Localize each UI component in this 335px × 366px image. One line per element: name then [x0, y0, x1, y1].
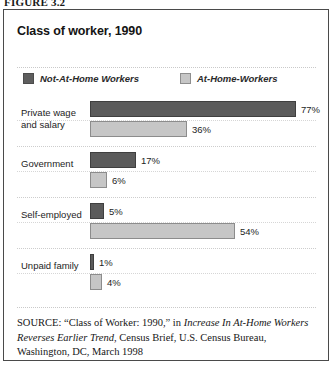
source-divider	[17, 307, 316, 308]
bar-not-at-home-private	[90, 101, 296, 117]
bar-value-at-home-self-employed: 54%	[240, 226, 259, 237]
legend-label-at-home: At-Home-Workers	[197, 73, 278, 84]
bar-row-at-home-private: 36%	[90, 121, 317, 137]
category-label-government: Government	[21, 158, 91, 170]
bar-pair-unpaid-family: 1% 4%	[90, 254, 317, 294]
figure-box: Class of worker, 1990 Not-At-Home Worker…	[3, 9, 329, 361]
bar-value-not-at-home-unpaid-family: 1%	[99, 257, 113, 268]
figure-caption: FIGURE 3.2	[4, 0, 65, 8]
legend-divider	[17, 67, 316, 68]
bar-row-not-at-home-self-employed: 5%	[90, 203, 317, 219]
bar-value-at-home-private: 36%	[192, 124, 211, 135]
bar-value-not-at-home-government: 17%	[141, 155, 160, 166]
chart-plot-area: Private wage and salary 77% 36% Governme…	[17, 96, 317, 301]
bar-row-at-home-government: 6%	[90, 172, 317, 188]
bar-not-at-home-government	[90, 152, 136, 168]
bar-not-at-home-unpaid-family	[90, 254, 94, 270]
bar-group-private-wage-and-salary: Private wage and salary 77% 36%	[17, 96, 317, 147]
chart-legend: Not-At-Home Workers At-Home-Workers	[17, 67, 317, 89]
bar-value-not-at-home-self-employed: 5%	[109, 206, 123, 217]
category-label-unpaid-family: Unpaid family	[21, 260, 91, 272]
legend-label-not-at-home: Not-At-Home Workers	[40, 73, 139, 84]
legend-item-not-at-home-workers: Not-At-Home Workers	[23, 73, 139, 84]
bar-value-at-home-government: 6%	[112, 175, 126, 186]
bar-group-government: Government 17% 6%	[17, 147, 317, 198]
bar-value-not-at-home-private: 77%	[301, 104, 320, 115]
bar-pair-self-employed: 5% 54%	[90, 203, 317, 243]
bar-group-unpaid-family: Unpaid family 1% 4%	[17, 249, 317, 300]
bar-value-at-home-unpaid-family: 4%	[107, 277, 121, 288]
bar-at-home-self-employed	[90, 223, 235, 239]
bar-row-not-at-home-government: 17%	[90, 152, 317, 168]
chart-title: Class of worker, 1990	[17, 24, 142, 38]
bar-at-home-unpaid-family	[90, 274, 102, 290]
bar-row-at-home-unpaid-family: 4%	[90, 274, 317, 290]
bar-pair-private-wage-and-salary: 77% 36%	[90, 101, 317, 141]
source-kicker: SOURCE:	[17, 317, 61, 328]
legend-swatch-icon-not-at-home	[23, 73, 34, 84]
bar-at-home-government	[90, 172, 107, 188]
bar-at-home-private	[90, 121, 187, 137]
category-label-private-wage-and-salary: Private wage and salary	[21, 107, 91, 130]
bar-row-not-at-home-unpaid-family: 1%	[90, 254, 317, 270]
bar-group-self-employed: Self-employed 5% 54%	[17, 198, 317, 249]
category-label-self-employed: Self-employed	[21, 209, 91, 221]
legend-swatch-icon-at-home	[180, 73, 191, 84]
bar-pair-government: 17% 6%	[90, 152, 317, 192]
source-text-before: “Class of Worker: 1990,” in	[61, 317, 183, 328]
bar-row-at-home-self-employed: 54%	[90, 223, 317, 239]
legend-item-at-home-workers: At-Home-Workers	[180, 73, 278, 84]
source-note: SOURCE: “Class of Worker: 1990,” in Incr…	[17, 316, 319, 360]
bar-not-at-home-self-employed	[90, 203, 104, 219]
bar-row-not-at-home-private: 77%	[90, 101, 317, 117]
